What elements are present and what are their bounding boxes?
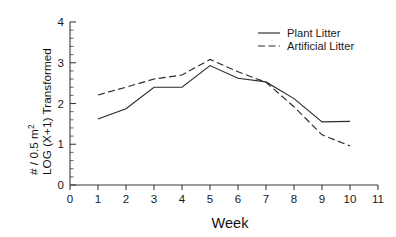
x-axis-tick-label: 9 xyxy=(319,193,325,205)
line-chart: # / 0.5 m2 LOG (X+1) Transformed 0123456… xyxy=(0,0,396,237)
x-axis-tick-label: 7 xyxy=(263,193,269,205)
y-axis-label-line2: LOG (X+1) Transformed xyxy=(40,48,54,175)
x-axis-tick-label: 1 xyxy=(95,193,101,205)
y-axis-tick-label: 1 xyxy=(58,138,64,150)
x-axis-tick-label: 8 xyxy=(291,193,297,205)
y-axis-tick-label: 4 xyxy=(58,16,65,28)
chart-legend: Plant LitterArtificial Litter xyxy=(258,27,354,52)
y-axis-tick-label: 2 xyxy=(58,98,64,110)
y-axis-label-line1: # / 0.5 m xyxy=(27,129,41,175)
series-line-plant-litter xyxy=(98,66,350,122)
chart-figure: # / 0.5 m2 LOG (X+1) Transformed 0123456… xyxy=(0,0,396,237)
x-axis-tick-label: 6 xyxy=(235,193,241,205)
x-axis-tick-label: 11 xyxy=(372,193,384,205)
x-axis-tick-label: 4 xyxy=(179,193,186,205)
svg-text:# / 0.5 m2: # / 0.5 m2 xyxy=(27,124,41,175)
x-axis-tick-label: 10 xyxy=(344,193,357,205)
y-axis-tick-label: 3 xyxy=(58,57,64,69)
x-axis-tick-label: 5 xyxy=(207,193,213,205)
data-series-group xyxy=(98,59,350,145)
legend-label: Plant Litter xyxy=(287,27,341,39)
legend-label: Artificial Litter xyxy=(287,40,354,52)
y-axis-tick-label: 0 xyxy=(58,179,64,191)
y-axis-label: # / 0.5 m2 LOG (X+1) Transformed xyxy=(27,48,54,175)
x-axis-tick-label: 2 xyxy=(123,193,129,205)
x-axis-tick-label: 3 xyxy=(151,193,157,205)
y-axis-label-superscript: 2 xyxy=(27,124,36,129)
x-axis-tick-label: 0 xyxy=(67,193,73,205)
x-axis-title: Week xyxy=(212,215,250,231)
